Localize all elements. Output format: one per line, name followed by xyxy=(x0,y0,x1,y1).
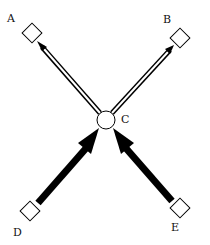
node-b-square xyxy=(170,28,190,48)
node-d-square xyxy=(20,201,40,221)
edge-c-to-b xyxy=(112,45,174,113)
edge-d-to-c xyxy=(38,128,99,203)
node-a-square xyxy=(22,23,42,43)
node-b-label: B xyxy=(163,13,171,26)
node-e-label: E xyxy=(171,221,179,234)
node-c-circle xyxy=(97,111,115,129)
node-d-label: D xyxy=(13,226,22,239)
node-e-square xyxy=(170,198,190,218)
node-a-label: A xyxy=(6,12,16,25)
node-c-label: C xyxy=(121,113,129,126)
diagram-canvas: A B C D E xyxy=(0,0,210,245)
edge-e-to-c xyxy=(113,128,172,201)
edge-c-to-a xyxy=(37,41,100,113)
